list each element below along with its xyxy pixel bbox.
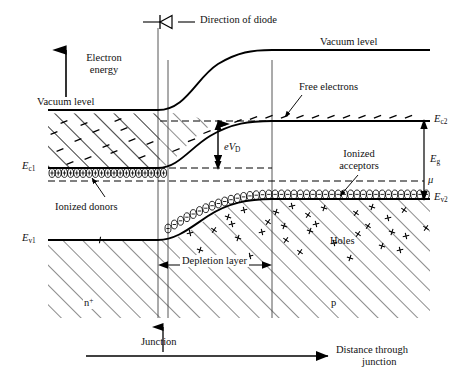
band-diagram-figure: Direction of diode Electron energy Vacuu… (0, 0, 457, 385)
ionized-acceptors-line1: Ionized (343, 148, 375, 159)
ec2-subscript: c2 (440, 117, 447, 126)
diode-direction-label: Direction of diode (200, 14, 277, 26)
region-p-label: p (330, 297, 337, 309)
ec1-subscript: c1 (28, 164, 35, 173)
band-gap-label: Eg (430, 153, 440, 166)
built-in-potential-subscript: D (235, 145, 240, 154)
electron-energy-label: Electron energy (74, 52, 134, 76)
distance-axis-line2: junction (336, 356, 396, 368)
free-electrons-label: Free electrons (299, 81, 358, 93)
vacuum-level-left-label: Vacuum level (37, 96, 94, 108)
band-gap-subscript: g (436, 157, 440, 166)
electron-energy-line1: Electron (86, 52, 122, 63)
distance-axis-label: Distance through junction (336, 344, 408, 368)
built-in-potential-arrow (215, 121, 222, 170)
junction-label: Junction (141, 336, 177, 348)
built-in-potential-label: eVD (224, 141, 240, 154)
region-n-label: n+ (83, 297, 94, 309)
band-gap-arrow (420, 119, 427, 201)
holes-label: Holes (330, 235, 355, 247)
distance-axis-line1: Distance through (336, 344, 408, 355)
ev2-label: Ev2 (434, 191, 448, 204)
ev1-label: Ev1 (22, 232, 36, 245)
ec1-label: Ec1 (22, 160, 35, 173)
vacuum-level-right-label: Vacuum level (320, 36, 377, 48)
band-diagram-svg (0, 0, 457, 385)
ionized-acceptors-label: Ionized acceptors (330, 148, 388, 172)
ec2-label: Ec2 (434, 113, 447, 126)
electron-energy-line2: energy (90, 64, 118, 75)
depletion-layer-label: Depletion layer (180, 255, 249, 267)
region-n-superscript: + (89, 296, 93, 305)
ionized-acceptors-line2: acceptors (339, 160, 379, 171)
ev2-subscript: v2 (440, 195, 447, 204)
diode-symbol (143, 15, 195, 29)
ev1-subscript: v1 (28, 236, 35, 245)
ionized-donors-label: Ionized donors (55, 201, 118, 213)
chemical-potential-label: μ (428, 174, 433, 186)
ionized-donors-markers (49, 169, 167, 178)
